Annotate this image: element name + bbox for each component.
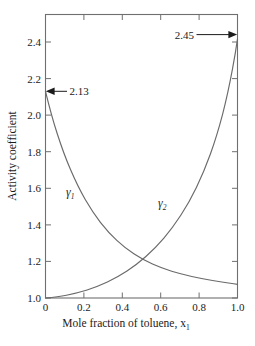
y-axis-title: Activity coefficient (6, 110, 19, 200)
y-tick-label: 2.2 (27, 73, 41, 85)
x-tick-label: 0.4 (115, 301, 129, 313)
x-tick-label: 0 (43, 301, 49, 313)
y-tick-label: 1.0 (27, 292, 41, 304)
annotation-label-2-45: 2.45 (175, 29, 195, 41)
x-tick-label: 0.6 (154, 301, 168, 313)
y-tick-label: 1.4 (27, 219, 41, 231)
plot-frame (46, 15, 238, 299)
series-label-gamma-1-subscript: 1 (71, 192, 75, 201)
x-axis-title-subscript: 1 (186, 323, 190, 332)
x-axis-title: Mole fraction of toluene, x1 (62, 317, 190, 332)
series-label-gamma-2: γ2 (158, 196, 167, 212)
y-tick-label: 2.0 (27, 109, 41, 121)
arrow-head-right-icon (228, 31, 237, 38)
right-axis-ticks (232, 42, 238, 298)
annotation-label-2-13: 2.13 (70, 85, 90, 97)
top-axis-ticks (84, 15, 199, 21)
x-axis-title-text: Mole fraction of toluene, x (62, 317, 186, 330)
y-tick-label: 1.2 (27, 255, 41, 267)
y-tick-labels: 1.0 1.2 1.4 1.6 1.8 2.0 2.2 2.4 (27, 36, 41, 304)
activity-coefficient-figure: 1.0 1.2 1.4 1.6 1.8 2.0 2.2 2.4 0 0.2 0.… (0, 0, 255, 346)
x-tick-label: 0.2 (77, 301, 91, 313)
y-tick-label: 1.6 (27, 182, 41, 194)
x-tick-label: 1.0 (231, 301, 245, 313)
x-tick-label: 0.8 (192, 301, 206, 313)
x-tick-labels: 0 0.2 0.4 0.6 0.8 1.0 (43, 301, 245, 313)
series-label-gamma-1: γ1 (66, 185, 74, 201)
y-tick-label: 1.8 (27, 146, 41, 158)
activity-coefficient-chart: 1.0 1.2 1.4 1.6 1.8 2.0 2.2 2.4 0 0.2 0.… (0, 0, 255, 346)
curve-gamma-1 (46, 91, 238, 284)
annotation-gamma-1-endpoint: 2.13 (46, 85, 89, 97)
caption-bleed-text (0, 337, 255, 346)
annotation-gamma-2-endpoint: 2.45 (175, 29, 237, 41)
arrow-head-left-icon (46, 88, 55, 95)
series-label-gamma-2-subscript: 2 (163, 203, 167, 212)
y-tick-label: 2.4 (27, 36, 41, 48)
y-axis-ticks (46, 42, 52, 298)
